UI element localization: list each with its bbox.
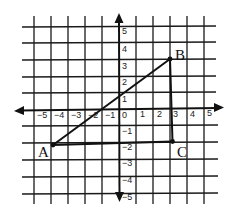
triangle-abc: [53, 59, 173, 145]
x-tick-label: 4: [190, 109, 195, 119]
x-axis-right-arrow-icon: [214, 103, 224, 112]
y-tick-label: 3: [122, 61, 127, 71]
x-axis-left-arrow-icon: [14, 106, 24, 115]
x-tick-label: 2: [157, 109, 162, 119]
point-c: [170, 139, 175, 144]
y-tick-label: 1: [122, 94, 127, 104]
y-tick-label: 5: [122, 26, 127, 36]
y-tick-label: −3: [122, 158, 132, 168]
coordinate-plane-figure: −5 −4 −3 −2 −1 0 1 2 3 4 5 5 4 3 2 1 −1 …: [0, 0, 233, 215]
y-axis-up-arrow-icon: [115, 13, 124, 23]
point-b: [168, 57, 173, 62]
x-tick-label: 5: [207, 108, 212, 118]
x-tick-label: 3: [173, 109, 178, 119]
y-tick-label: −5: [122, 192, 132, 202]
x-tick-label: 0: [122, 110, 127, 120]
y-tick-label: −4: [122, 175, 132, 185]
point-b-label: B: [175, 47, 185, 63]
point-c-label: C: [177, 144, 187, 160]
y-axis: [115, 13, 125, 202]
y-tick-label: 2: [122, 77, 127, 87]
x-tick-label: −5: [37, 110, 47, 120]
x-tick-labels: −5 −4 −3 −2 −1 0 1 2 3 4 5: [37, 108, 212, 120]
y-tick-label: 4: [122, 44, 127, 54]
x-tick-label: −1: [105, 110, 115, 120]
point-a: [51, 143, 56, 148]
x-tick-label: 1: [140, 109, 145, 119]
x-tick-label: −3: [71, 110, 81, 120]
y-tick-label: −1: [122, 126, 132, 136]
x-tick-label: −4: [54, 110, 64, 120]
point-a-label: A: [38, 144, 49, 160]
coordinate-plane-svg: −5 −4 −3 −2 −1 0 1 2 3 4 5 5 4 3 2 1 −1 …: [0, 0, 233, 215]
